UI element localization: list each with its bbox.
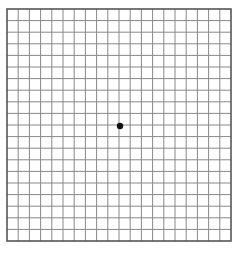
center-fixation-dot [117, 123, 123, 129]
amsler-grid [0, 0, 242, 256]
